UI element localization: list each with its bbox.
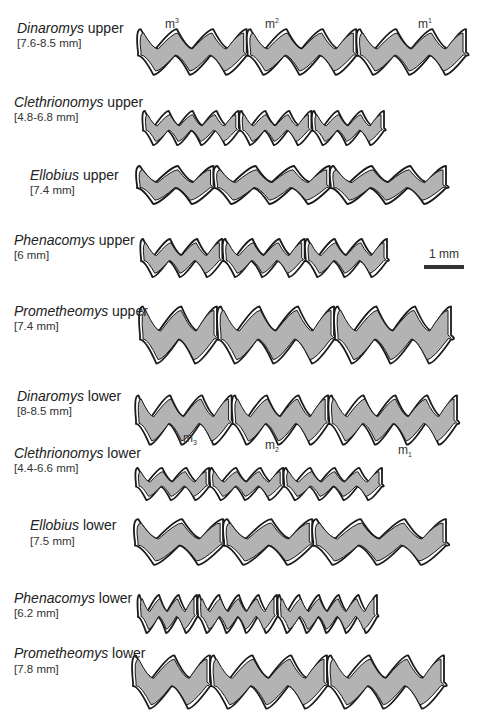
molar-tooth (217, 307, 337, 364)
size-range-clethrionomys-upper: [4.8-6.8 mm] (14, 111, 79, 124)
molar-tooth (214, 166, 333, 204)
scale-bar (424, 265, 464, 269)
molar-tooth (239, 111, 313, 145)
molar-tooth (136, 166, 216, 204)
molar-row-prometheomys-upper (139, 307, 454, 364)
genus-name: Ellobius (30, 167, 79, 183)
lower-molar-label-m3: m3 (183, 431, 197, 446)
molar-row-dinaromys-upper (137, 29, 469, 75)
lower-molar-label-m2: m2 (265, 438, 279, 453)
genus-name: Phenacomys (14, 232, 95, 248)
molar-tooth (223, 519, 316, 565)
species-label-prometheomys-upper: Prometheomys upper (14, 303, 148, 319)
size-range-ellobius-upper: [7.4 mm] (30, 184, 75, 197)
species-label-dinaromys-upper: Dinaromys upper (17, 20, 124, 36)
molar-tooth (247, 29, 359, 75)
molar-tooth (284, 468, 384, 500)
molar-row-ellobius-lower (134, 519, 449, 565)
jaw-name: upper (79, 167, 119, 183)
size-range-phenacomys-lower: [6.2 mm] (14, 607, 59, 620)
size-range-ellobius-lower: [7.5 mm] (30, 535, 75, 548)
size-range-prometheomys-lower: [7.8 mm] (14, 663, 59, 676)
molar-tooth (137, 29, 249, 75)
size-range-phenacomys-upper: [6 mm] (14, 249, 49, 262)
genus-name: Phenacomys (14, 590, 95, 606)
upper-molar-label-m3: m3 (165, 17, 179, 31)
genus-name: Clethrionomys (14, 445, 103, 461)
molar-tooth (135, 468, 211, 500)
genus-name: Dinaromys (17, 388, 84, 404)
molar-tooth (134, 519, 227, 565)
size-range-dinaromys-upper: [7.6-8.5 mm] (17, 37, 82, 50)
genus-name: Dinaromys (17, 20, 84, 36)
jaw-name: upper (103, 94, 143, 110)
species-label-prometheomys-lower: Prometheomys lower (14, 645, 146, 661)
lower-molar-label-m1: m1 (398, 443, 412, 458)
jaw-name: lower (103, 445, 140, 461)
species-label-phenacomys-upper: Phenacomys upper (14, 232, 135, 248)
molar-tooth (232, 395, 331, 444)
size-range-prometheomys-upper: [7.4 mm] (14, 320, 59, 333)
molar-row-phenacomys-lower (138, 595, 379, 633)
species-label-ellobius-upper: Ellobius upper (30, 167, 119, 183)
genus-name: Ellobius (30, 517, 79, 533)
jaw-name: upper (95, 232, 135, 248)
upper-molar-label-m2: m2 (265, 17, 279, 31)
species-label-ellobius-lower: Ellobius lower (30, 517, 116, 533)
species-label-clethrionomys-upper: Clethrionomys upper (14, 94, 143, 110)
molar-row-phenacomys-upper (140, 239, 389, 277)
molar-tooth (334, 307, 454, 364)
molar-tooth (140, 239, 224, 277)
jaw-name: lower (84, 388, 121, 404)
molar-tooth (209, 468, 285, 500)
species-label-dinaromys-lower: Dinaromys lower (17, 388, 121, 404)
size-range-dinaromys-lower: [8-8.5 mm] (17, 405, 72, 418)
molar-tooth (330, 166, 449, 204)
molar-row-clethrionomys-lower (135, 468, 383, 500)
molar-tooth (198, 595, 279, 633)
molar-row-ellobius-upper (136, 166, 449, 204)
molar-row-clethrionomys-upper (142, 111, 385, 145)
jaw-name: lower (95, 590, 132, 606)
molar-tooth (139, 307, 220, 364)
scale-bar-label: 1 mm (429, 247, 459, 261)
genus-name: Prometheomys (14, 303, 108, 319)
molar-tooth (138, 595, 199, 633)
genus-name: Clethrionomys (14, 94, 103, 110)
molar-tooth (328, 395, 459, 444)
jaw-name: lower (79, 517, 116, 533)
species-label-clethrionomys-lower: Clethrionomys lower (14, 445, 141, 461)
jaw-name: upper (108, 303, 148, 319)
size-range-clethrionomys-lower: [4.4-6.6 mm] (14, 462, 79, 475)
molar-tooth (312, 519, 449, 565)
species-label-phenacomys-lower: Phenacomys lower (14, 590, 132, 606)
molar-tooth (210, 655, 330, 708)
molar-tooth (142, 111, 240, 145)
molar-tooth (327, 655, 447, 708)
molar-tooth (356, 29, 468, 75)
molar-tooth (312, 111, 386, 145)
genus-name: Prometheomys (14, 645, 108, 661)
jaw-name: lower (108, 645, 145, 661)
jaw-name: upper (84, 20, 124, 36)
molar-row-prometheomys-lower (132, 655, 447, 708)
molar-tooth (223, 239, 307, 277)
molar-tooth (132, 655, 213, 708)
upper-molar-label-m1: m1 (418, 17, 432, 31)
molar-tooth (305, 239, 389, 277)
molar-tooth (278, 595, 379, 633)
